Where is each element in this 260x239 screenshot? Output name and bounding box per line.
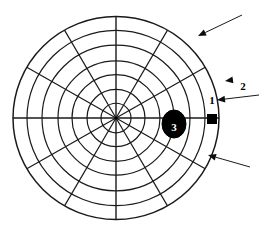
callout-top-arrow-shaft <box>205 15 242 33</box>
callouts-group: 2 <box>198 15 259 167</box>
callout-small-tick-arrow-head <box>225 77 233 84</box>
polar-grid-svg: 13 2 <box>0 0 260 239</box>
callout-bottom-arrow <box>208 154 250 167</box>
marker-square-1 <box>208 115 217 124</box>
callout-2-label: 2 <box>240 80 246 92</box>
polar-grid-figure: 13 2 <box>0 0 260 239</box>
grid-center-point <box>114 116 117 119</box>
callout-small-tick-arrow <box>225 77 233 84</box>
marker-blob-label-3: 3 <box>171 121 177 133</box>
callout-bottom-arrow-shaft <box>216 157 250 167</box>
callout-2-arrow-shaft <box>225 95 259 99</box>
grid-spokes-group <box>13 17 219 220</box>
marker-label-1: 1 <box>209 94 215 106</box>
callout-2-arrow <box>217 95 259 102</box>
callout-top-arrow <box>198 15 242 36</box>
